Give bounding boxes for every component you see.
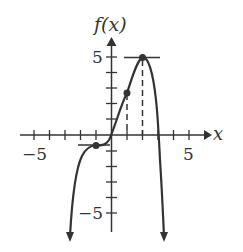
y-axis-arrow-icon: [107, 37, 117, 46]
x-tick-label-5: 5: [183, 144, 194, 164]
point-2-5: [139, 54, 146, 61]
point-1-3: [124, 90, 131, 97]
curve-right-arrow-icon: [160, 232, 168, 242]
x-tick-label-neg5: −5: [22, 144, 47, 164]
x-axis-label: x: [213, 123, 223, 144]
curve-left-arrow-icon: [66, 232, 74, 242]
y-axis-label: f(x): [92, 13, 127, 35]
point-neg1-neg1: [93, 142, 100, 149]
y-tick-label-neg5: −5: [78, 203, 103, 223]
x-axis: [20, 130, 212, 140]
x-axis-arrow-icon: [204, 130, 212, 140]
tangent-lines: [78, 58, 160, 146]
function-graph: f(x) x −5 5 5 −5: [0, 0, 243, 252]
y-tick-label-5: 5: [92, 47, 103, 67]
